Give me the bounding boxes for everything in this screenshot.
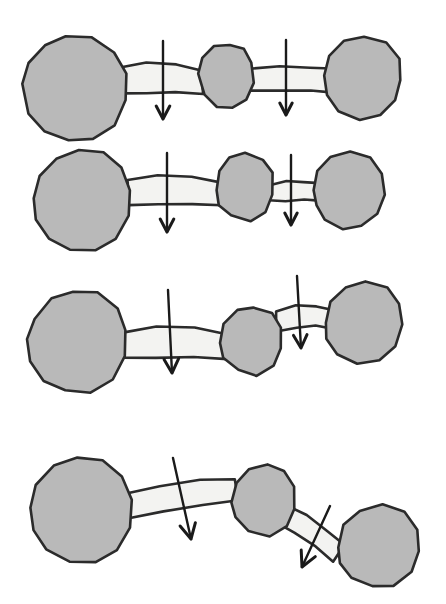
link-segment-link-right-row-1	[249, 66, 332, 92]
blob-node-blob-middle-row-1	[198, 45, 254, 108]
link-segment-link-right-row-3	[276, 305, 332, 331]
blob-node-blob-left-row-1	[22, 36, 126, 140]
link-segment-link-right-row-2	[269, 181, 320, 201]
blob-node-blob-right-row-3	[326, 281, 402, 363]
blob-node-blob-middle-row-2	[217, 153, 273, 222]
blob-node-blob-right-row-1	[324, 37, 400, 120]
link-segment-link-left-row-2	[128, 175, 223, 205]
link-segment-link-left-row-3	[123, 327, 228, 360]
blob-node-blob-left-row-4	[30, 458, 131, 562]
blob-node-blob-right-row-2	[314, 152, 385, 230]
diagram-canvas	[0, 0, 446, 604]
link-segment-link-left-row-1	[120, 63, 203, 95]
